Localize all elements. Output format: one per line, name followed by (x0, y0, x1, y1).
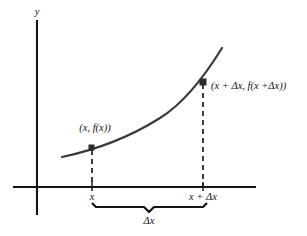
figure-canvas: y (x, f(x)) (x + Δx, f(x +Δx)) x x + Δx … (0, 0, 307, 236)
point-label-right: (x + Δx, f(x +Δx)) (211, 80, 287, 92)
y-axis-label: y (34, 6, 40, 17)
x-tick-label-right: x + Δx (188, 191, 217, 202)
delta-x-brace (92, 203, 207, 212)
diagram-svg: y (x, f(x)) (x + Δx, f(x +Δx)) x x + Δx … (0, 0, 307, 236)
point-label-left: (x, f(x)) (79, 122, 111, 134)
point-marker-right (200, 79, 207, 86)
x-tick-label-left: x (89, 191, 95, 202)
delta-x-label: Δx (143, 215, 155, 226)
function-curve (62, 48, 222, 157)
point-marker-left (89, 145, 95, 151)
